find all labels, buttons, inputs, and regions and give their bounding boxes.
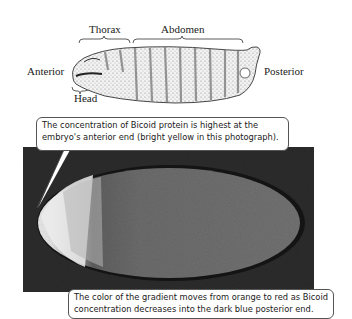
callout-top-line2: embryo's anterior end (bright yellow in …	[42, 132, 283, 144]
gradient-color-callout: The color of the gradient moves from ora…	[68, 289, 334, 319]
callout-bottom-line1: The color of the gradient moves from ora…	[74, 292, 328, 304]
callout-bottom-line2: concentration decreases into the dark bl…	[74, 304, 328, 316]
callout-top-line1: The concentration of Bicoid protein is h…	[42, 120, 283, 132]
anterior-concentration-callout: The concentration of Bicoid protein is h…	[36, 117, 289, 151]
